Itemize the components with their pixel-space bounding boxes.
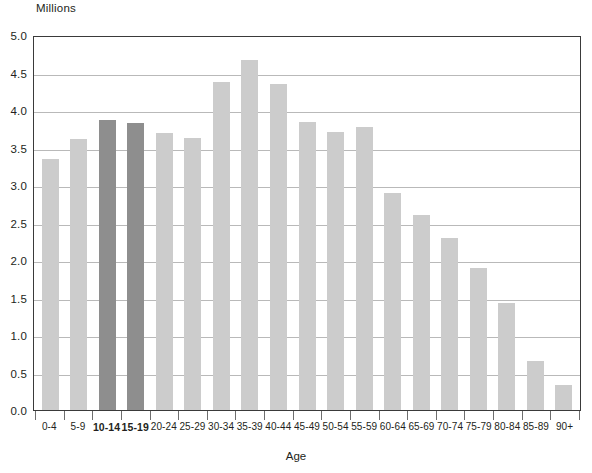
bar-slot bbox=[65, 37, 94, 410]
x-axis-tick-mark bbox=[264, 411, 265, 420]
bar bbox=[327, 132, 344, 410]
bar-slot bbox=[550, 37, 579, 410]
x-axis-tick-label: 65-69 bbox=[407, 421, 436, 445]
x-axis-tick-mark bbox=[321, 411, 322, 420]
x-axis-tick-label: 40-44 bbox=[264, 421, 293, 445]
x-axis-tick-label: 55-59 bbox=[350, 421, 379, 445]
x-axis-tick-mark bbox=[207, 411, 208, 420]
age-distribution-bar-chart: Millions 5.04.54.03.53.02.52.01.51.00.50… bbox=[0, 0, 592, 473]
bar-slot bbox=[36, 37, 65, 410]
x-axis-tick-label: 80-84 bbox=[493, 421, 522, 445]
x-axis-tick-mark bbox=[35, 411, 36, 420]
y-axis-tick-label: 2.5 bbox=[0, 218, 27, 230]
x-axis-tick-mark bbox=[350, 411, 351, 420]
x-axis-tick-label: 45-49 bbox=[293, 421, 322, 445]
x-axis-tick-mark bbox=[121, 411, 122, 420]
x-axis-tick-mark bbox=[92, 411, 93, 420]
x-axis-tick-label: 50-54 bbox=[321, 421, 350, 445]
x-axis-tick-mark bbox=[464, 411, 465, 420]
bar-slot bbox=[321, 37, 350, 410]
x-axis-tick-label: 25-29 bbox=[178, 421, 207, 445]
x-axis-tick-mark bbox=[579, 411, 580, 420]
x-axis-tick-label: 90+ bbox=[550, 421, 579, 445]
bar-slot bbox=[493, 37, 522, 410]
bar bbox=[470, 268, 487, 411]
bar-slot bbox=[435, 37, 464, 410]
x-axis-tick-mark bbox=[522, 411, 523, 420]
bar-slot bbox=[207, 37, 236, 410]
x-axis-tick-mark bbox=[550, 411, 551, 420]
y-axis-tick-label: 0.0 bbox=[0, 405, 27, 417]
bar-slot bbox=[407, 37, 436, 410]
bar bbox=[555, 385, 572, 411]
x-axis-tick-mark bbox=[436, 411, 437, 420]
bar bbox=[42, 159, 59, 410]
bar bbox=[127, 123, 144, 410]
x-axis-tick-mark bbox=[150, 411, 151, 420]
x-axis-tick-label: 10-14 bbox=[92, 421, 121, 445]
x-axis-tick-label: 85-89 bbox=[522, 421, 551, 445]
x-axis-tick-mark bbox=[293, 411, 294, 420]
bar-slot bbox=[293, 37, 322, 410]
bar-series bbox=[34, 37, 580, 410]
x-axis-tick-label: 15-19 bbox=[121, 421, 150, 445]
bar-slot bbox=[378, 37, 407, 410]
bar bbox=[184, 138, 201, 410]
bar-slot bbox=[521, 37, 550, 410]
y-axis-tick-label: 5.0 bbox=[0, 30, 27, 42]
x-axis-tick-mark bbox=[178, 411, 179, 420]
y-axis-tick-label: 3.5 bbox=[0, 143, 27, 155]
x-axis-tick-mark bbox=[407, 411, 408, 420]
y-axis-tick-label: 0.5 bbox=[0, 368, 27, 380]
x-axis-tick-label: 60-64 bbox=[379, 421, 408, 445]
x-axis-tick-label: 30-34 bbox=[207, 421, 236, 445]
bar-slot bbox=[350, 37, 379, 410]
bar bbox=[498, 303, 515, 410]
bar-slot bbox=[464, 37, 493, 410]
bar bbox=[299, 122, 316, 410]
x-axis-tick-label: 0-4 bbox=[35, 421, 64, 445]
bar bbox=[213, 82, 230, 410]
bar bbox=[99, 120, 116, 410]
bar bbox=[413, 215, 430, 410]
x-axis-tick-label: 20-24 bbox=[150, 421, 179, 445]
bar bbox=[356, 127, 373, 411]
y-axis-tick-label: 4.5 bbox=[0, 68, 27, 80]
x-axis-tick-label: 35-39 bbox=[235, 421, 264, 445]
bar bbox=[270, 84, 287, 410]
bar bbox=[384, 193, 401, 411]
x-axis-tick-mark bbox=[64, 411, 65, 420]
x-axis-tick-mark bbox=[379, 411, 380, 420]
y-axis-tick-label: 1.0 bbox=[0, 330, 27, 342]
bar bbox=[527, 361, 544, 410]
x-axis-tick-mark bbox=[235, 411, 236, 420]
bar bbox=[241, 60, 258, 410]
y-axis-tick-label: 3.0 bbox=[0, 180, 27, 192]
y-axis-unit-caption: Millions bbox=[36, 2, 76, 14]
x-axis-tick-mark bbox=[493, 411, 494, 420]
y-axis-tick-label: 4.0 bbox=[0, 105, 27, 117]
bar-slot bbox=[179, 37, 208, 410]
x-axis-tick-label: 5-9 bbox=[64, 421, 93, 445]
x-axis-tick-label: 75-79 bbox=[464, 421, 493, 445]
x-axis-tick-labels: 0-45-910-1415-1920-2425-2930-3435-3940-4… bbox=[33, 421, 581, 445]
bar bbox=[441, 238, 458, 410]
bar-slot bbox=[93, 37, 122, 410]
y-axis-tick-label: 1.5 bbox=[0, 293, 27, 305]
x-axis-tick-marks bbox=[33, 411, 581, 420]
bar bbox=[70, 139, 87, 411]
y-axis-tick-label: 2.0 bbox=[0, 255, 27, 267]
bar-slot bbox=[150, 37, 179, 410]
bar-slot bbox=[264, 37, 293, 410]
bar bbox=[156, 133, 173, 410]
plot-area bbox=[33, 36, 581, 411]
x-axis-title: Age bbox=[0, 450, 592, 462]
bar-slot bbox=[122, 37, 151, 410]
x-axis: 0-45-910-1415-1920-2425-2930-3435-3940-4… bbox=[33, 411, 581, 445]
x-axis-tick-label: 70-74 bbox=[436, 421, 465, 445]
bar-slot bbox=[236, 37, 265, 410]
